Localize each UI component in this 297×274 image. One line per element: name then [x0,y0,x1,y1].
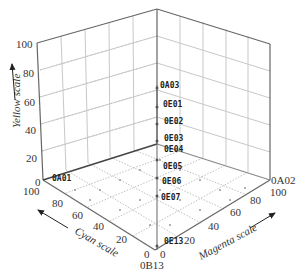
svg-text:20: 20 [116,233,128,245]
svg-text:60: 60 [72,209,84,221]
svg-text:40: 40 [25,124,37,136]
svg-text:40: 40 [93,220,105,232]
label-0E02: 0E02 [164,117,183,126]
svg-text:40: 40 [208,220,220,232]
svg-text:100: 100 [16,38,33,50]
svg-text:60: 60 [230,206,242,218]
label-0A02: 0A02 [271,174,295,186]
svg-text:80: 80 [250,194,262,206]
cyan-axis-ticks: 100 80 60 40 20 0 [23,185,150,260]
magenta-axis-label: Magenta scale [195,221,259,262]
label-0A03: 0A03 [160,81,179,90]
svg-text:60: 60 [24,96,36,108]
svg-text:0: 0 [160,248,166,260]
svg-text:100: 100 [23,185,40,197]
label-0E04: 0E04 [164,145,183,154]
yellow-axis-label: Yellow scale [10,74,22,128]
svg-text:100: 100 [270,186,287,198]
label-0E06: 0E06 [162,177,181,186]
cmy-3d-chart: 0A03 0E01 0E02 0E03 0E04 0E05 0E06 0E07 … [0,0,297,274]
label-0E05: 0E05 [163,162,182,171]
svg-text:0: 0 [144,248,150,260]
label-0E01: 0E01 [163,100,182,109]
label-0B13: 0B13 [140,259,164,271]
label-0E07: 0E07 [161,193,180,202]
label-0E13: 0E13 [164,237,183,246]
label-0E03: 0E03 [164,134,183,143]
cyan-arrow-icon [38,210,68,228]
label-0A01: 0A01 [52,174,71,183]
svg-text:80: 80 [23,67,35,79]
svg-text:20: 20 [26,152,38,164]
svg-text:20: 20 [184,234,196,246]
magenta-arrow-icon [250,213,275,228]
svg-text:80: 80 [52,197,64,209]
left-wall [40,16,157,170]
